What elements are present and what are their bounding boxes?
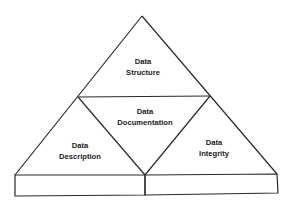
pyramid-diagram: Data Structure Data Documentation Data D… (0, 0, 288, 214)
section-data-documentation-label-line2: Documentation (117, 118, 173, 127)
section-data-structure-label-line1: Data (135, 57, 152, 66)
pyramid-base (15, 174, 278, 196)
section-data-integrity-label-line1: Data (206, 138, 223, 147)
section-data-description-label-line1: Data (72, 141, 89, 150)
section-data-description-label-line2: Description (59, 152, 101, 161)
section-data-structure: Data Structure (78, 16, 210, 97)
section-data-structure-label-line2: Structure (126, 68, 160, 77)
section-data-integrity-label-line2: Integrity (199, 149, 230, 158)
base-left-box (15, 175, 145, 196)
section-data-documentation-label-line1: Data (137, 107, 154, 116)
base-right-box (145, 174, 278, 195)
